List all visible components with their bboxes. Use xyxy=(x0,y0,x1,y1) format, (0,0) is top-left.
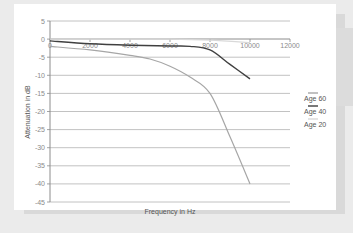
y-tick-label: -5 xyxy=(39,54,45,61)
legend-label: Age 40 xyxy=(304,108,326,116)
y-tick-label: -35 xyxy=(35,162,45,169)
y-axis-label: Attenuation in dB xyxy=(24,85,31,139)
y-tick-label: -45 xyxy=(35,199,45,206)
y-tick-label: -30 xyxy=(35,144,45,151)
series-age-20 xyxy=(50,39,250,43)
x-tick-label: 10000 xyxy=(240,42,260,49)
x-axis-label: Frequency in Hz xyxy=(145,208,196,216)
x-tick-label: 12000 xyxy=(280,42,300,49)
y-tick-label: 5 xyxy=(41,18,45,25)
series-age-60 xyxy=(50,46,250,184)
y-tick-label: -20 xyxy=(35,108,45,115)
series-age-40 xyxy=(50,41,250,79)
line-chart: 50-5-10-15-20-25-30-35-40-45 02000400060… xyxy=(0,0,353,233)
legend-label: Age 20 xyxy=(304,121,326,129)
y-tick-label: 0 xyxy=(41,36,45,43)
legend: Age 60Age 40Age 20 xyxy=(304,93,326,129)
y-tick-label: -25 xyxy=(35,126,45,133)
y-tick-label: -10 xyxy=(35,72,45,79)
y-tick-label: -15 xyxy=(35,90,45,97)
legend-label: Age 60 xyxy=(304,95,326,103)
y-tick-label: -40 xyxy=(35,180,45,187)
x-tick-label: 0 xyxy=(48,42,52,49)
